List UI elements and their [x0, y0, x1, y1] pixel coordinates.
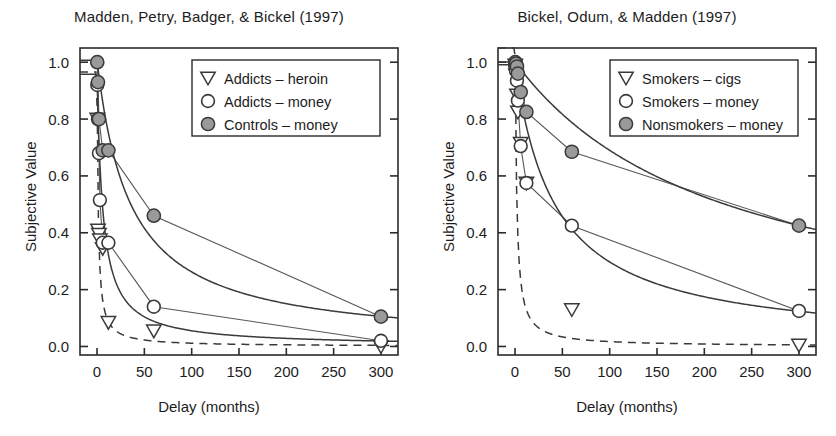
legend-label: Addicts – money: [224, 94, 332, 110]
y-tick-label: 0.6: [48, 167, 69, 184]
y-tick-label: 0.8: [466, 111, 487, 128]
x-tick-label: 300: [368, 363, 393, 380]
marker-circle-filled: [514, 85, 527, 98]
plot-right: 0501001502002503000.00.20.40.60.81.0Smok…: [418, 0, 836, 436]
marker-circle-filled: [511, 67, 524, 80]
marker-circle-filled: [565, 145, 578, 158]
x-tick-label: 150: [644, 363, 669, 380]
marker-triangle-open: [147, 325, 161, 338]
marker-circle-open: [793, 305, 806, 318]
legend-right: Smokers – cigsSmokers – moneyNonsmokers …: [610, 60, 798, 136]
x-tick-label: 200: [274, 363, 299, 380]
x-tick-label: 50: [554, 363, 571, 380]
y-tick-label: 0.2: [466, 281, 487, 298]
y-tick-label: 0.0: [466, 338, 487, 355]
marker-circle-open: [102, 236, 115, 249]
y-tick-label: 0.8: [48, 111, 69, 128]
marker-circle-open: [565, 219, 578, 232]
plot-left: 0501001502002503000.00.20.40.60.81.0Addi…: [0, 0, 418, 436]
marker-circle-open: [93, 194, 106, 207]
x-tick-label: 50: [136, 363, 153, 380]
marker-circle-open: [202, 95, 215, 108]
y-tick-label: 0.4: [466, 224, 487, 241]
legend-label: Addicts – heroin: [224, 71, 328, 87]
y-axis-label-right: Subjective Value: [440, 141, 457, 252]
y-tick-label: 0.6: [466, 167, 487, 184]
x-tick-label: 250: [321, 363, 346, 380]
marker-circle-filled: [91, 56, 104, 69]
x-tick-label: 200: [692, 363, 717, 380]
legend-label: Nonsmokers – money: [642, 117, 784, 133]
x-axis-label-right: Delay (months): [418, 398, 836, 415]
marker-circle-open: [514, 140, 527, 153]
x-tick-label: 250: [739, 363, 764, 380]
y-tick-label: 1.0: [48, 54, 69, 71]
y-tick-label: 0.0: [48, 338, 69, 355]
marker-circle-filled: [201, 117, 214, 130]
marker-circle-filled: [147, 209, 160, 222]
x-tick-label: 100: [597, 363, 622, 380]
marker-circle-filled: [374, 310, 387, 323]
panel-right: Bickel, Odum, & Madden (1997) 0501001502…: [418, 0, 836, 436]
marker-circle-open: [520, 177, 533, 190]
x-tick-label: 0: [511, 363, 519, 380]
x-tick-label: 150: [226, 363, 251, 380]
y-axis-label-left: Subjective Value: [22, 141, 39, 252]
legend-label: Smokers – cigs: [642, 71, 741, 87]
marker-circle-filled: [91, 76, 104, 89]
marker-circle-filled: [102, 144, 115, 157]
discounting-figure: Madden, Petry, Badger, & Bickel (1997) 0…: [0, 0, 836, 436]
marker-circle-open: [147, 300, 160, 313]
marker-triangle-open: [101, 317, 115, 330]
y-tick-label: 0.4: [48, 224, 69, 241]
marker-circle-open: [375, 334, 388, 347]
y-tick-label: 0.2: [48, 281, 69, 298]
marker-circle-filled: [619, 117, 632, 130]
marker-circle-open: [620, 95, 633, 108]
marker-circle-filled: [520, 105, 533, 118]
y-tick-label: 1.0: [466, 54, 487, 71]
legend-label: Controls – money: [224, 117, 338, 133]
marker-triangle-open: [565, 304, 579, 317]
x-tick-label: 0: [93, 363, 101, 380]
x-tick-label: 300: [786, 363, 811, 380]
marker-circle-filled: [792, 219, 805, 232]
panel-left: Madden, Petry, Badger, & Bickel (1997) 0…: [0, 0, 418, 436]
legend-label: Smokers – money: [642, 94, 760, 110]
marker-triangle-open: [792, 339, 806, 352]
legend-left: Addicts – heroinAddicts – moneyControls …: [192, 60, 380, 136]
x-axis-label-left: Delay (months): [0, 398, 418, 415]
x-tick-label: 100: [179, 363, 204, 380]
marker-circle-filled: [92, 112, 105, 125]
